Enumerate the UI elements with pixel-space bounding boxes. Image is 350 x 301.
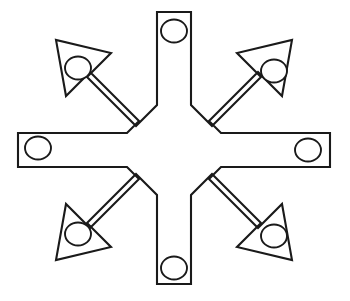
- star-drawing: [0, 0, 350, 301]
- hole-arm-east: [295, 139, 321, 162]
- hole-arm-west: [25, 137, 51, 160]
- hole-arm-northwest: [65, 57, 91, 80]
- hole-arm-north: [161, 20, 187, 43]
- hole-arm-southeast: [261, 225, 287, 248]
- figure-canvas: Eight-armed star bracket Line drawing of…: [0, 0, 350, 301]
- hole-arm-southwest: [65, 223, 91, 246]
- hole-arm-south: [161, 257, 187, 280]
- hole-arm-northeast: [261, 60, 287, 83]
